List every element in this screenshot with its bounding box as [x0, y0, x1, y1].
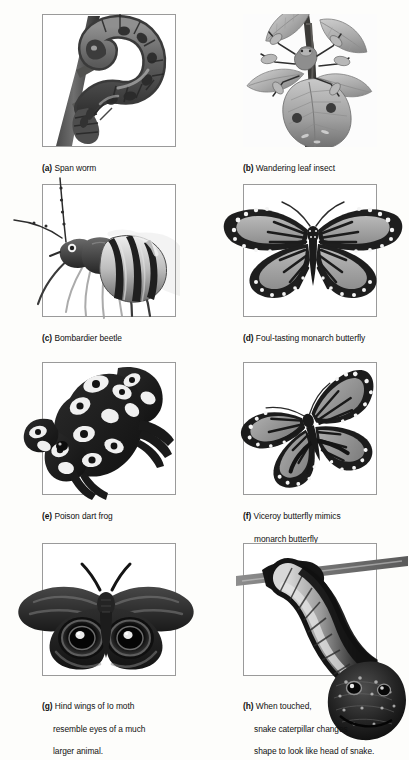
panel-g-caption-line-1: (g) Hind wings of Io moth [42, 701, 202, 712]
panel-e-caption-text: Poison dart frog [54, 511, 112, 521]
panel-a-frame [42, 14, 176, 147]
panel-f-frame [243, 362, 377, 495]
panel-a-caption-text: Span worm [54, 163, 96, 173]
panel-f-label: (f) [243, 511, 254, 521]
panel-e-frame [42, 362, 176, 495]
panel-a-label: (a) [42, 163, 54, 173]
panel-b-label: (b) [243, 163, 256, 173]
panel-h-frame [243, 543, 377, 676]
panel-b-caption-text: Wandering leaf insect [256, 163, 335, 173]
panel-g-caption-line-2: resemble eyes of a much [42, 724, 202, 735]
panel-h-label: (h) [243, 701, 256, 711]
panel-a-caption: (a) Span worm [42, 152, 192, 174]
panel-b-frame [243, 14, 377, 147]
panel-c-caption-text: Bombardier beetle [54, 333, 122, 343]
panel-d-caption: (d) Foul-tasting monarch butterfly [243, 322, 408, 344]
panel-d-label: (d) [243, 333, 256, 343]
panel-h-caption: (h) When touched, snake caterpillar chan… [243, 690, 409, 760]
panel-g-label: (g) [42, 701, 55, 711]
panel-e-label: (e) [42, 511, 54, 521]
panel-h-caption-line-2: snake caterpillar changes [243, 724, 409, 735]
panel-f-caption-line-1: (f) Viceroy butterfly mimics [243, 511, 408, 522]
panel-g-frame [42, 543, 176, 676]
panel-c-frame [42, 184, 176, 317]
panel-g-caption: (g) Hind wings of Io moth resemble eyes … [42, 690, 202, 760]
panel-c-caption: (c) Bombardier beetle [42, 322, 192, 344]
panel-b-caption: (b) Wandering leaf insect [243, 152, 403, 174]
panel-h-caption-line-3: shape to look like head of snake. [243, 746, 409, 757]
panel-d-caption-text: Foul-tasting monarch butterfly [256, 333, 365, 343]
panel-d-frame [243, 184, 377, 317]
panel-g-caption-line-3: larger animal. [42, 746, 202, 757]
panel-h-caption-line-1: (h) When touched, [243, 701, 409, 712]
panel-c-label: (c) [42, 333, 54, 343]
panel-e-caption: (e) Poison dart frog [42, 500, 192, 522]
